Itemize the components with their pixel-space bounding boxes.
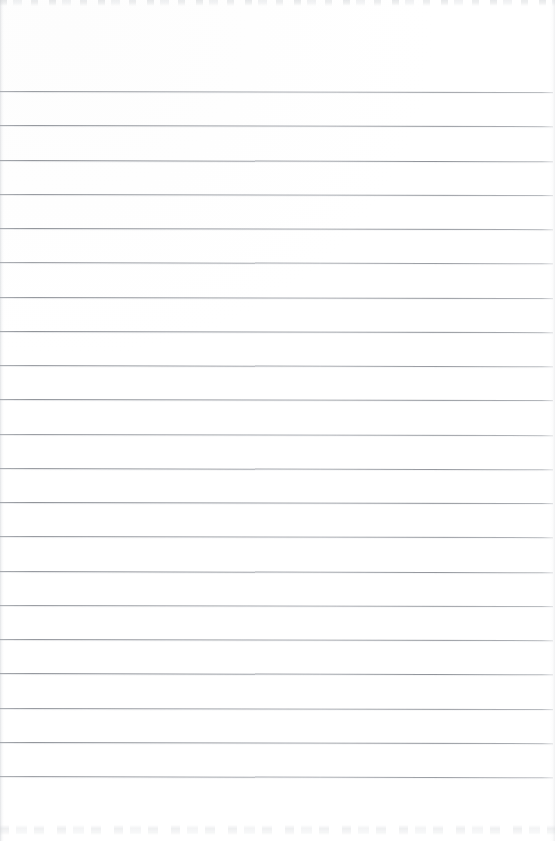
rule-line	[0, 297, 553, 299]
rule-line	[0, 160, 553, 162]
rule-line	[0, 331, 553, 333]
rule-line	[0, 125, 553, 127]
rule-line	[0, 742, 553, 744]
rule-line	[0, 365, 553, 367]
rule-line	[0, 228, 553, 230]
rule-line	[0, 468, 553, 470]
rule-line	[0, 194, 553, 196]
rule-line	[0, 639, 553, 641]
ruled-lines-layer	[0, 0, 555, 841]
scanned-page	[0, 0, 555, 841]
rule-line	[0, 434, 553, 436]
rule-line	[0, 262, 553, 264]
rule-line	[0, 91, 553, 93]
rule-line	[0, 399, 553, 401]
rule-line	[0, 605, 553, 607]
rule-line	[0, 536, 553, 538]
rule-line	[0, 571, 553, 573]
rule-line	[0, 502, 553, 504]
rule-line	[0, 776, 553, 778]
rule-line	[0, 673, 553, 675]
rule-line	[0, 708, 553, 710]
